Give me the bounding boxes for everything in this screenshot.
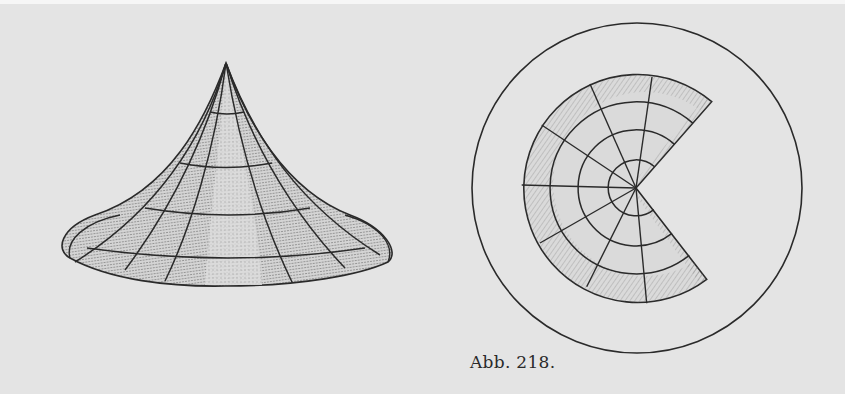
figure-caption: Abb. 218. xyxy=(470,352,555,372)
figure-drawing xyxy=(0,0,845,394)
cone-figure xyxy=(62,63,392,286)
cone-development xyxy=(472,23,802,353)
figure-page: Abb. 218. xyxy=(0,0,845,394)
